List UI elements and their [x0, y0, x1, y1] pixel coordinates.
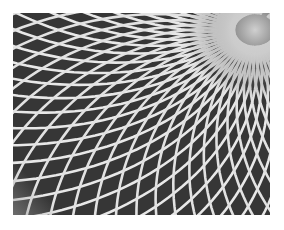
lattice-photo	[13, 13, 270, 215]
curved-lattice-image	[13, 13, 270, 215]
